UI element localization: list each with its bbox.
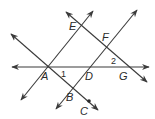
line-AE	[21, 11, 93, 100]
lines-group	[11, 10, 149, 110]
labels-group: ABCDEFG12	[40, 20, 128, 117]
line-EG	[66, 12, 147, 82]
point-label-f: F	[102, 31, 110, 43]
point-label-a: A	[40, 70, 48, 82]
angle-label-2: 2	[111, 56, 116, 66]
point-label-b: B	[66, 91, 73, 103]
diagram-canvas: ABCDEFG12	[0, 0, 155, 119]
point-label-e: E	[69, 20, 77, 32]
point-c-dot	[87, 99, 91, 103]
geometry-diagram: ABCDEFG12	[0, 0, 155, 119]
angle-label-1: 1	[61, 69, 66, 79]
point-label-g: G	[119, 70, 128, 82]
point-label-c: C	[80, 105, 88, 117]
point-label-d: D	[85, 70, 93, 82]
